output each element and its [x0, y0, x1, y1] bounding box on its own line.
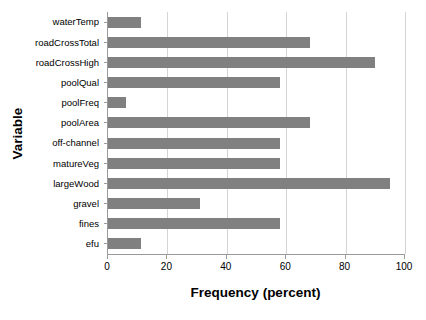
y-axis-tick-label: poolArea	[18, 113, 102, 133]
x-axis-tick-mark	[285, 254, 286, 259]
bar	[108, 37, 310, 48]
y-axis-tick-label: efu	[18, 234, 102, 254]
x-axis-tick-label: 20	[161, 261, 172, 272]
y-axis-tick-mark	[104, 82, 108, 83]
bar-slot	[108, 194, 405, 214]
y-axis-tick-label: poolFreq	[18, 93, 102, 113]
bar-chart: Variable waterTemproadCrossTotalroadCros…	[0, 0, 426, 320]
bar-slot	[108, 173, 405, 193]
y-axis-tick-label: matureVeg	[18, 153, 102, 173]
bar-series	[108, 12, 405, 254]
x-axis-tick-mark	[166, 254, 167, 259]
y-axis-tick-labels: waterTemproadCrossTotalroadCrossHighpool…	[18, 12, 102, 254]
x-axis-tick-label: 40	[220, 261, 231, 272]
x-axis-tick-label: 80	[339, 261, 350, 272]
bar	[108, 17, 141, 28]
bar	[108, 158, 280, 169]
bar	[108, 238, 141, 249]
y-axis-tick-label: roadCrossHigh	[18, 52, 102, 72]
x-axis-tick-label: 0	[104, 261, 110, 272]
y-axis-tick-label: gravel	[18, 194, 102, 214]
y-axis-tick-label: poolQual	[18, 73, 102, 93]
bar-slot	[108, 234, 405, 254]
bar-slot	[108, 153, 405, 173]
bar	[108, 77, 280, 88]
x-axis-tick-label: 100	[396, 261, 413, 272]
y-axis-tick-label: waterTemp	[18, 12, 102, 32]
x-axis-tick-mark	[107, 254, 108, 259]
y-axis-tick-label: off-channel	[18, 133, 102, 153]
bar-slot	[108, 52, 405, 72]
bar	[108, 117, 310, 128]
y-axis-tick-mark	[104, 42, 108, 43]
y-axis-tick-mark	[104, 62, 108, 63]
bar	[108, 178, 390, 189]
y-axis-tick-label: roadCrossTotal	[18, 32, 102, 52]
bar	[108, 198, 200, 209]
bar	[108, 57, 375, 68]
y-axis-tick-mark	[104, 122, 108, 123]
y-axis-tick-label: fines	[18, 214, 102, 234]
y-axis-tick-mark	[104, 102, 108, 103]
x-axis-ticks: 020406080100	[107, 254, 404, 284]
y-axis-tick-label: largeWood	[18, 173, 102, 193]
x-axis-tick-mark	[404, 254, 405, 259]
y-axis-tick-mark	[104, 22, 108, 23]
bar	[108, 138, 280, 149]
y-axis-tick-mark	[104, 223, 108, 224]
bar-slot	[108, 113, 405, 133]
bar-slot	[108, 214, 405, 234]
y-axis-tick-mark	[104, 183, 108, 184]
gridline	[405, 12, 406, 254]
bar-slot	[108, 133, 405, 153]
plot-area	[107, 12, 405, 255]
x-axis-title: Frequency (percent)	[107, 285, 404, 300]
x-axis-tick-label: 60	[280, 261, 291, 272]
bar-slot	[108, 93, 405, 113]
y-axis-tick-mark	[104, 163, 108, 164]
y-axis-tick-mark	[104, 203, 108, 204]
bar-slot	[108, 32, 405, 52]
y-axis-tick-mark	[104, 143, 108, 144]
bar	[108, 218, 280, 229]
x-axis-tick-mark	[226, 254, 227, 259]
bar	[108, 97, 126, 108]
bar-slot	[108, 73, 405, 93]
x-axis-tick-mark	[345, 254, 346, 259]
bar-slot	[108, 12, 405, 32]
y-axis-tick-mark	[104, 243, 108, 244]
